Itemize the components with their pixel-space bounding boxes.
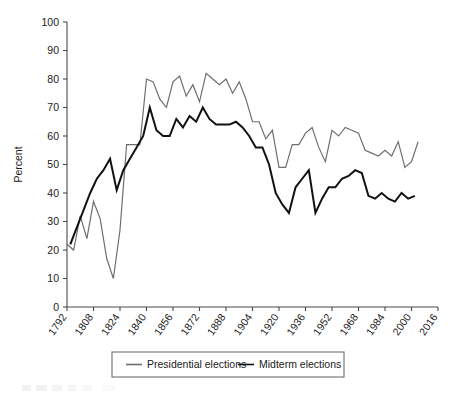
x-tick-label: 1856 [151,311,174,337]
legend-label-2: Midterm elections [259,358,341,370]
y-axis-group: 0102030405060708090100 Percent [12,16,67,313]
x-axis-ticks: 1792180818241840185618721888190419201936… [45,307,439,337]
chart-legend: Presidential electionsMidterm elections [112,352,344,377]
legend-label-1: Presidential elections [147,358,246,370]
x-tick-label: 1872 [178,311,201,337]
y-tick-label: 30 [47,215,59,227]
x-tick-label: 1984 [363,311,386,337]
series-line-1 [67,73,418,278]
y-tick-label: 40 [47,187,59,199]
faded-caption-artifact [22,385,172,391]
y-tick-label: 0 [53,301,59,313]
x-tick-label: 2000 [390,311,413,337]
x-tick-label: 1936 [284,311,307,337]
y-tick-label: 90 [47,44,59,56]
y-tick-label: 70 [47,101,59,113]
y-tick-label: 10 [47,272,59,284]
x-tick-label: 1792 [45,311,68,337]
y-tick-label: 20 [47,244,59,256]
x-tick-label: 1888 [204,311,227,337]
x-tick-label: 1840 [125,311,148,337]
y-tick-label: 50 [47,158,59,170]
x-tick-label: 1952 [310,311,333,337]
x-tick-label: 1904 [231,311,254,337]
y-tick-label: 60 [47,130,59,142]
y-axis-ticks: 0102030405060708090100 [41,16,67,313]
y-axis-title: Percent [12,146,24,182]
x-tick-label: 2016 [416,311,439,337]
voter-turnout-line-chart: 0102030405060708090100 Percent 179218081… [0,0,456,393]
x-axis-group: 1792180818241840185618721888190419201936… [45,307,439,337]
chart-canvas: 0102030405060708090100 Percent 179218081… [0,0,456,393]
x-tick-label: 1824 [98,311,121,337]
y-tick-label: 80 [47,73,59,85]
x-tick-label: 1968 [337,311,360,337]
y-tick-label: 100 [41,16,59,28]
x-tick-label: 1920 [257,311,280,337]
data-series-group [67,73,418,278]
series-line-2 [70,108,415,245]
x-tick-label: 1808 [72,311,95,337]
